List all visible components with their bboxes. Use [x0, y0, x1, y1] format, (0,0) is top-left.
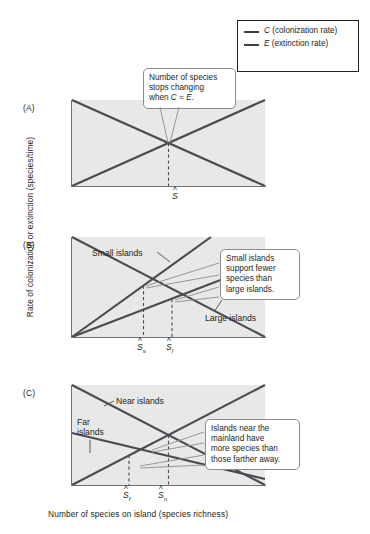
hat-accent-b-large: ^: [167, 338, 171, 346]
x-axis-line-c: [71, 485, 266, 486]
colonization-text: (colonization rate): [272, 26, 337, 35]
callout-c-line3: more species than: [211, 444, 294, 454]
legend-item-extinction-label: E (extinction rate): [264, 39, 328, 49]
callout-c-line4: those farther away.: [211, 455, 294, 465]
callout-c-line1: Islands near the: [211, 424, 294, 434]
callout-b-line3: species than: [226, 274, 294, 284]
legend: C (colonization rate) E (extinction rate…: [237, 20, 359, 72]
legend-item-extinction: E (extinction rate): [244, 39, 353, 49]
extinction-line-swatch: [244, 44, 259, 46]
y-axis-line-a: [71, 100, 72, 187]
x-axis-title: Number of species on island (species ric…: [48, 509, 348, 519]
callout-b-line2: support fewer: [226, 264, 294, 274]
callout-a-period: .: [192, 93, 194, 102]
tick-sub-c-near: n: [164, 495, 167, 502]
far-islands-label: Far islands: [77, 417, 104, 438]
x-axis-line-a: [71, 186, 266, 187]
y-axis-line-c: [71, 385, 72, 486]
tick-label-s-hat-large-b: ^Sl: [166, 342, 173, 354]
far-islands-label-line2: islands: [77, 427, 104, 437]
island-biogeography-figure: Rate of colonization or extinction (spec…: [0, 0, 370, 534]
callout-a-line3: when C = E.: [149, 93, 230, 103]
far-islands-label-line1: Far: [77, 417, 104, 427]
callout-panel-c: Islands near the mainland have more spec…: [205, 419, 300, 470]
callout-panel-a: Number of species stops changing when C …: [143, 68, 236, 109]
plot-panel-a: [72, 100, 265, 186]
y-axis-title: Rate of colonization or extinction (spec…: [25, 93, 35, 361]
tick-label-s-hat-small-b: ^Ss: [137, 342, 146, 354]
colonization-line-swatch: [244, 31, 259, 33]
tick-label-s-hat-far-c: ^Sf: [123, 490, 130, 502]
callout-a-line2: stops changing: [149, 83, 230, 93]
callout-b-line4: large islands.: [226, 285, 294, 295]
small-islands-label: Small islands: [92, 248, 143, 258]
tick-sub-b-small: s: [143, 347, 146, 354]
hat-accent-c-near: ^: [159, 486, 163, 494]
hat-accent-c-far: ^: [124, 486, 128, 494]
callout-panel-b: Small islands support fewer species than…: [220, 249, 300, 300]
callout-b-line1: Small islands: [226, 254, 294, 264]
callout-a-equals: =: [177, 93, 186, 102]
extinction-text: (extinction rate): [272, 39, 328, 48]
plot-a-lines: [72, 100, 265, 186]
hat-accent-b-small: ^: [138, 338, 142, 346]
near-islands-label: Near islands: [116, 396, 164, 406]
callout-a-when: when: [149, 93, 171, 102]
legend-item-colonization: C (colonization rate): [244, 26, 353, 36]
colonization-symbol: C: [264, 26, 270, 35]
panel-letter-c: (C): [23, 388, 35, 398]
panel-letter-a: (A): [23, 103, 35, 113]
y-axis-line-b: [71, 237, 72, 338]
callout-a-line1: Number of species: [149, 73, 230, 83]
panel-letter-b: (B): [23, 240, 35, 250]
tick-label-s-hat-near-c: ^Sn: [158, 490, 167, 502]
callout-c-line2: mainland have: [211, 434, 294, 444]
tick-label-s-hat-a: ^S: [172, 191, 178, 201]
extinction-symbol: E: [264, 39, 269, 48]
large-islands-label: Large islands: [205, 313, 256, 323]
hat-accent-a: ^: [173, 187, 177, 195]
legend-item-colonization-label: C (colonization rate): [264, 26, 337, 36]
